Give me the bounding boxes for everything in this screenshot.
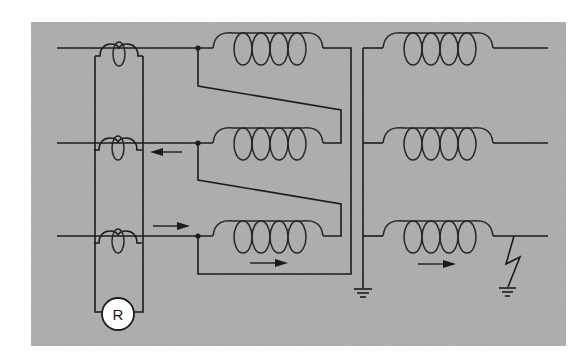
relay-label: R: [113, 306, 124, 323]
transformer-protection-diagram: R: [0, 0, 585, 360]
relay-r: R: [102, 298, 134, 330]
